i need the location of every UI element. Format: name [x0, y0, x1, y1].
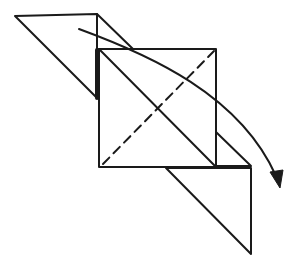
- diagram-svg: [0, 0, 294, 265]
- left-triangle-flap: [15, 14, 97, 98]
- origami-diagram: [0, 0, 294, 265]
- bottom-triangle-flap: [166, 168, 251, 254]
- right-flap: [216, 132, 251, 166]
- fold-arrow-curve: [79, 29, 276, 176]
- fold-arrow-head-icon: [270, 170, 283, 188]
